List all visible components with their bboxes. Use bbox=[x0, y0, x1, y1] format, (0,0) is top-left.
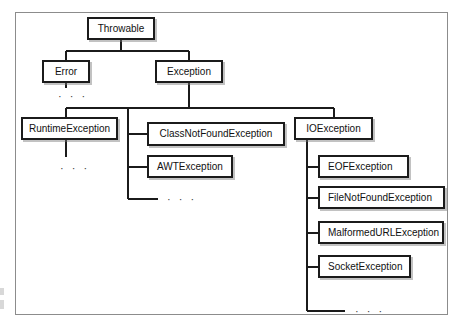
class-node-filenotfoundexception[interactable]: FileNotFoundException bbox=[318, 186, 445, 209]
class-node-socketexception[interactable]: SocketException bbox=[318, 255, 411, 278]
class-node-label: IOException bbox=[296, 124, 371, 134]
class-node-label: Throwable bbox=[89, 24, 153, 34]
ellipsis-error-subclasses: · · · bbox=[58, 91, 88, 102]
class-node-label: FileNotFoundException bbox=[320, 193, 432, 203]
class-node-label: Exception bbox=[157, 67, 221, 77]
class-node-classnotfoundexception[interactable]: ClassNotFoundException bbox=[147, 122, 285, 146]
class-node-label: SocketException bbox=[320, 262, 403, 272]
class-node-label: MalformedURLException bbox=[320, 228, 439, 238]
class-node-exception[interactable]: Exception bbox=[155, 60, 223, 83]
ellipsis-ioexception-subclasses: · · · bbox=[355, 306, 385, 317]
class-node-ioexception[interactable]: IOException bbox=[294, 117, 373, 140]
class-node-eofexception[interactable]: EOFException bbox=[318, 155, 409, 178]
class-node-runtimeexception[interactable]: RuntimeException bbox=[21, 117, 118, 140]
class-node-label: AWTException bbox=[149, 162, 223, 172]
class-node-label: Error bbox=[44, 67, 88, 77]
class-node-throwable[interactable]: Throwable bbox=[87, 17, 155, 40]
class-node-awtexception[interactable]: AWTException bbox=[147, 155, 233, 178]
class-node-label: RuntimeException bbox=[23, 124, 116, 134]
diagram-canvas: Throwable Error Exception RuntimeExcepti… bbox=[0, 0, 462, 329]
class-node-error[interactable]: Error bbox=[42, 60, 90, 83]
ellipsis-exception-subclasses: · · · bbox=[167, 194, 197, 205]
class-node-label: EOFException bbox=[320, 162, 392, 172]
ellipsis-runtimeexception-subclasses: · · · bbox=[60, 163, 90, 174]
class-node-label: ClassNotFoundException bbox=[149, 129, 283, 139]
class-node-malformedurlexception[interactable]: MalformedURLException bbox=[318, 221, 444, 244]
